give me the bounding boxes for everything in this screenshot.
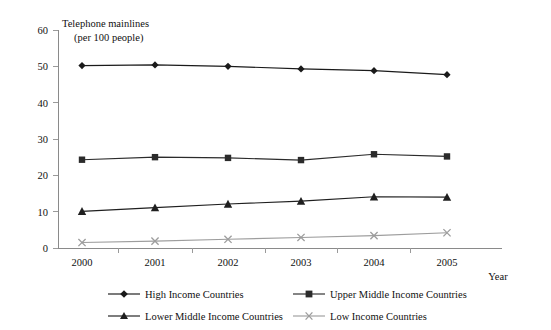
telephone-mainlines-line-chart: Telephone mainlines (per 100 people) 0 1… <box>0 0 551 330</box>
y-tick-label-50: 50 <box>38 61 49 72</box>
chart-background <box>0 0 551 330</box>
x-tick-label-2002: 2002 <box>218 257 239 268</box>
y-tick-label-60: 60 <box>38 25 49 36</box>
y-tick-label-40: 40 <box>38 98 49 109</box>
legend-label-high-income: High Income Countries <box>145 289 244 300</box>
data-point-1-2 <box>225 155 231 161</box>
chart-subtitle: (per 100 people) <box>74 32 144 44</box>
x-tick-label-2004: 2004 <box>364 257 386 268</box>
legend-label-upper-middle-income: Upper Middle Income Countries <box>330 289 467 300</box>
x-tick-label-2001: 2001 <box>145 257 166 268</box>
data-point-1-1 <box>152 154 158 160</box>
y-tick-label-0: 0 <box>43 243 48 254</box>
x-tick-label-2003: 2003 <box>291 257 312 268</box>
x-tick-label-2000: 2000 <box>72 257 93 268</box>
x-axis-title: Year <box>488 271 508 282</box>
y-tick-label-10: 10 <box>38 207 49 218</box>
x-tick-label-2005: 2005 <box>437 257 458 268</box>
y-tick-label-30: 30 <box>38 134 49 145</box>
chart-title: Telephone mainlines <box>62 18 149 29</box>
data-point-1-4 <box>371 151 377 157</box>
y-tick-label-20: 20 <box>38 170 49 181</box>
data-point-1-3 <box>298 157 304 163</box>
data-point-1-5 <box>444 153 450 159</box>
legend-label-low-income: Low Income Countries <box>330 311 427 322</box>
legend-marker-square-icon <box>306 291 313 298</box>
chart-figure: Telephone mainlines (per 100 people) 0 1… <box>0 0 551 330</box>
data-point-1-0 <box>79 157 85 163</box>
legend-label-lower-middle-income: Lower Middle Income Countries <box>145 311 283 322</box>
